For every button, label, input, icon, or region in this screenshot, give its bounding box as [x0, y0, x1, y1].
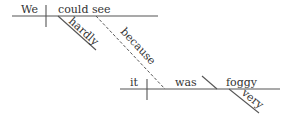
sub-verb: was	[175, 76, 197, 89]
sub-complement: foggy	[226, 76, 258, 89]
complement-divider	[202, 76, 217, 89]
modifier-hardly: hardly	[66, 15, 102, 49]
sub-subject: it	[130, 76, 139, 89]
sentence-diagram: We could see hardly because it was foggy…	[0, 0, 290, 123]
main-verb: could see	[58, 3, 111, 16]
main-subject: We	[21, 3, 38, 16]
